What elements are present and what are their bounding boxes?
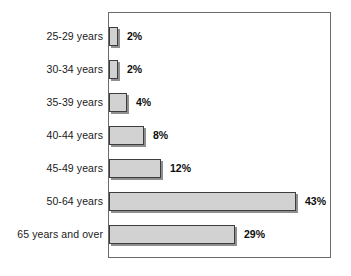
bar-with-value: 2% <box>109 59 142 80</box>
bar-chart: 25-29 years 2% 30-34 years 2% 35-39 year… <box>0 0 351 276</box>
category-label: 50-64 years <box>46 191 103 212</box>
bar <box>109 126 144 145</box>
bar-row: 50-64 years 43% <box>0 191 351 212</box>
category-label: 65 years and over <box>17 224 103 245</box>
value-label: 8% <box>153 126 168 145</box>
bar-row: 40-44 years 8% <box>0 125 351 146</box>
bar-row: 45-49 years 12% <box>0 158 351 179</box>
bar <box>109 93 127 112</box>
value-label: 2% <box>127 60 142 79</box>
bar-with-value: 29% <box>109 224 265 245</box>
bar-with-value: 12% <box>109 158 191 179</box>
value-label: 4% <box>136 93 151 112</box>
bar <box>109 60 118 79</box>
category-label: 25-29 years <box>46 26 103 47</box>
bar <box>109 192 296 211</box>
value-label: 43% <box>305 192 326 211</box>
bar <box>109 159 161 178</box>
bar-row: 25-29 years 2% <box>0 26 351 47</box>
category-label: 45-49 years <box>46 158 103 179</box>
bar-row: 35-39 years 4% <box>0 92 351 113</box>
bar-with-value: 2% <box>109 26 142 47</box>
bar-row: 30-34 years 2% <box>0 59 351 80</box>
bar <box>109 27 118 46</box>
category-label: 35-39 years <box>46 92 103 113</box>
bar-with-value: 43% <box>109 191 326 212</box>
bar-row: 65 years and over 29% <box>0 224 351 245</box>
category-label: 30-34 years <box>46 59 103 80</box>
value-label: 12% <box>170 159 191 178</box>
bar-with-value: 4% <box>109 92 151 113</box>
value-label: 2% <box>127 27 142 46</box>
bar-with-value: 8% <box>109 125 168 146</box>
bar <box>109 225 235 244</box>
category-label: 40-44 years <box>46 125 103 146</box>
value-label: 29% <box>244 225 265 244</box>
